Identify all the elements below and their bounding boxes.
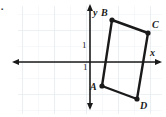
- vertex-label-a: A: [90, 82, 97, 92]
- vertex-dot-b: [109, 17, 114, 22]
- figure-canvas: ▪ y x 1 1 A B C D: [0, 0, 166, 117]
- bullet-marker: ▪: [1, 6, 3, 12]
- vertex-label-b: B: [101, 8, 108, 18]
- vertex-label-c: C: [152, 20, 159, 30]
- x-unit-label: 1: [83, 63, 88, 72]
- y-unit-label: 1: [82, 41, 87, 50]
- vertex-label-d: D: [140, 101, 147, 111]
- x-axis-label: x: [150, 48, 155, 58]
- vertex-dot-d: [134, 96, 139, 101]
- y-axis-label: y: [93, 8, 97, 18]
- vertex-dot-c: [145, 30, 150, 35]
- vertex-dot-a: [99, 83, 104, 88]
- x-axis-arrow-left: [12, 59, 19, 65]
